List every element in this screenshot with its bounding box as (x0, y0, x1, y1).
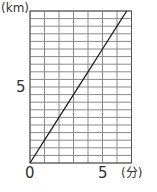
x-axis-label: (分) (121, 167, 142, 179)
x-tick-label-5: 5 (98, 166, 108, 181)
line-chart (0, 0, 157, 192)
y-axis-label: (km) (1, 2, 29, 14)
x-tick-label-0: 0 (25, 166, 35, 181)
y-tick-label-5: 5 (16, 80, 26, 95)
